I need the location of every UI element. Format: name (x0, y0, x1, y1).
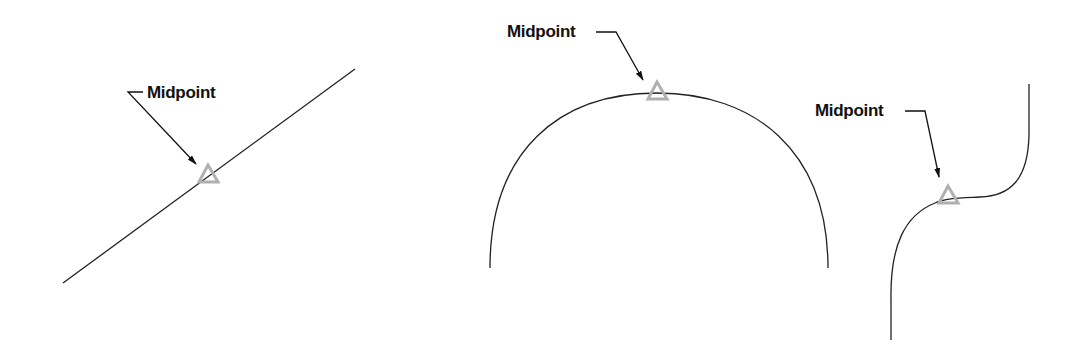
midpoint-diagram (0, 0, 1078, 358)
triangle-icon (648, 82, 667, 99)
midpoint-label-spline: Midpoint (815, 101, 883, 121)
spline-curve (891, 84, 1029, 340)
midpoint-label-arc: Midpoint (507, 22, 575, 42)
triangle-icon (939, 186, 958, 203)
arc-leader (596, 32, 643, 80)
spline-panel (891, 84, 1029, 340)
arc-panel (490, 32, 828, 268)
midpoint-label-line: Midpoint (147, 83, 215, 103)
triangle-icon (199, 165, 218, 182)
spline-leader (905, 111, 939, 177)
arc-curve (490, 93, 828, 268)
